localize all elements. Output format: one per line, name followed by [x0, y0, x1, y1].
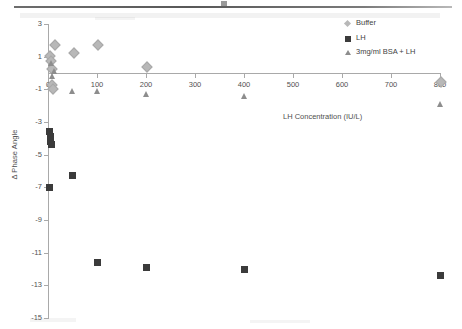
x-tick-label: 600 [327, 80, 357, 89]
page-noise [250, 320, 310, 323]
data-point-diamond [141, 62, 152, 73]
data-point-square [46, 184, 53, 191]
scatter-plot-figure: 31-1-3-5-7-9-11-13-15 010020030040050060… [0, 0, 462, 329]
x-tick-mark [342, 73, 343, 78]
x-tick-mark [391, 73, 392, 78]
page-noise [95, 17, 135, 20]
y-tick-mark [44, 285, 49, 286]
data-point-diamond [68, 47, 79, 58]
y-tick-label: -7 [18, 183, 42, 191]
x-tick-mark [244, 73, 245, 78]
data-point-diamond [49, 39, 60, 50]
data-point-triangle [143, 91, 149, 97]
y-tick-label: -13 [18, 281, 42, 289]
data-point-diamond [92, 39, 103, 50]
x-tick-label: 200 [131, 80, 161, 89]
data-point-square [48, 141, 55, 148]
y-tick-mark [44, 220, 49, 221]
y-tick-label: -11 [18, 249, 42, 257]
x-tick-label: 300 [180, 80, 210, 89]
x-axis-title: LH Concentration (IU/L) [283, 112, 362, 121]
data-point-square [437, 272, 444, 279]
y-tick-label: 1 [18, 53, 42, 61]
y-tick-mark [44, 122, 49, 123]
y-tick-label: -5 [18, 151, 42, 159]
square-icon [345, 36, 351, 42]
legend-label: LH [356, 32, 366, 44]
x-tick-label: 700 [376, 80, 406, 89]
data-point-triangle [48, 60, 54, 66]
y-tick-mark [44, 24, 49, 25]
triangle-icon [345, 50, 351, 55]
data-point-triangle [49, 73, 55, 79]
y-tick-label: -9 [18, 216, 42, 224]
data-point-square [94, 259, 101, 266]
legend-label: 3mg/ml BSA + LH [356, 46, 415, 58]
x-tick-label: 400 [229, 80, 259, 89]
y-tick-label: -3 [18, 118, 42, 126]
y-tick-mark [44, 253, 49, 254]
data-point-square [241, 266, 248, 273]
y-tick-mark [44, 155, 49, 156]
x-tick-mark [146, 73, 147, 78]
data-point-triangle [69, 88, 75, 94]
data-point-triangle [241, 93, 247, 99]
legend-label: Buffer [356, 17, 376, 29]
data-point-square [143, 264, 150, 271]
data-point-triangle [437, 101, 443, 107]
y-axis-title: Δ Phase Angle [10, 115, 19, 195]
y-tick-label: 3 [18, 20, 42, 28]
x-tick-mark [195, 73, 196, 78]
x-tick-label: 500 [278, 80, 308, 89]
x-tick-mark [97, 73, 98, 78]
data-point-square [69, 172, 76, 179]
x-tick-mark [293, 73, 294, 78]
page-noise [30, 318, 76, 322]
data-point-triangle [94, 88, 100, 94]
